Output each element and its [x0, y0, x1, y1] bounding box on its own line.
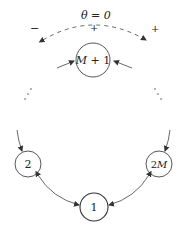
ellipsis-right: [154, 88, 162, 100]
node-1-label: 1: [91, 201, 98, 214]
theta-label: θ = 0: [81, 9, 111, 22]
minus-sign: −: [30, 22, 39, 35]
node-2m-label: 2M: [151, 159, 168, 170]
arrow-into-node-2: [17, 130, 22, 151]
arrow-into-top-left: [57, 61, 74, 68]
ring-diagram: θ = 0 − + + M + 1 2 2M 1: [0, 0, 185, 236]
ellipsis-left: [24, 88, 32, 100]
plus-sign-right: +: [151, 23, 159, 34]
plus-sign-middle: +: [90, 22, 98, 33]
edge-2m-to-1: [109, 175, 149, 205]
arrow-into-top-right: [114, 61, 132, 68]
edge-2-to-1: [38, 175, 79, 205]
node-m-plus-1-label: M + 1: [75, 54, 110, 67]
node-2-label: 2: [25, 158, 32, 171]
arrow-into-node-2m: [165, 130, 170, 151]
